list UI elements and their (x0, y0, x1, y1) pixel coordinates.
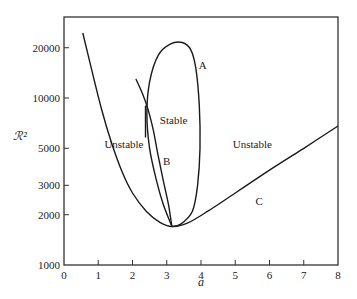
x-tick-label: 6 (267, 269, 273, 281)
y-tick-label: 2000 (38, 209, 61, 221)
curves (83, 33, 338, 227)
y-tick-label: 5000 (38, 142, 61, 154)
y-tick-label: 3000 (38, 179, 61, 191)
curve-label-a: A (199, 59, 207, 71)
x-tick-label: 1 (96, 269, 102, 281)
x-tick-label: 0 (61, 269, 67, 281)
y-tick-label: 1000 (38, 259, 61, 271)
x-axis-label: a (198, 275, 204, 289)
y-tick-label: 10000 (33, 92, 61, 104)
x-tick-label: 3 (164, 269, 170, 281)
x-tick-label: 8 (335, 269, 341, 281)
x-tick-label: 2 (130, 269, 136, 281)
x-tick-label: 5 (233, 269, 239, 281)
y-axis-label: ℛ² (13, 129, 27, 143)
curve-label-b: B (163, 155, 170, 167)
stability-chart: 012345678 10002000300050001000020000 ABC… (0, 0, 357, 299)
x-tick-label: 7 (301, 269, 307, 281)
region-label-unstable: Unstable (233, 138, 272, 150)
y-tick-label: 20000 (33, 42, 61, 54)
region-label-stable: Stable (160, 114, 188, 126)
curve-label-c: C (256, 195, 263, 207)
curve-c (83, 33, 338, 227)
curve-a (147, 42, 200, 226)
region-label-unstable: Unstable (104, 138, 143, 150)
curve-b (136, 79, 172, 227)
